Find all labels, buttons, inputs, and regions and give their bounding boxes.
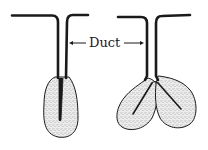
branched-gland-duct-right-wall: [156, 15, 190, 80]
branched-gland-duct-left-wall: [118, 17, 147, 80]
simple-gland: [12, 15, 88, 137]
gland-diagram: Duct: [0, 0, 208, 150]
simple-gland-duct-left-wall: [12, 16, 58, 79]
branched-gland-left-lobe: [117, 78, 157, 130]
duct-callout: Duct: [69, 35, 144, 50]
branched-gland: [117, 15, 196, 130]
simple-gland-duct-right-wall: [66, 15, 88, 78]
duct-label: Duct: [89, 35, 121, 50]
duct-left-arrowhead-icon: [69, 41, 73, 45]
duct-right-arrowhead-icon: [140, 41, 144, 45]
